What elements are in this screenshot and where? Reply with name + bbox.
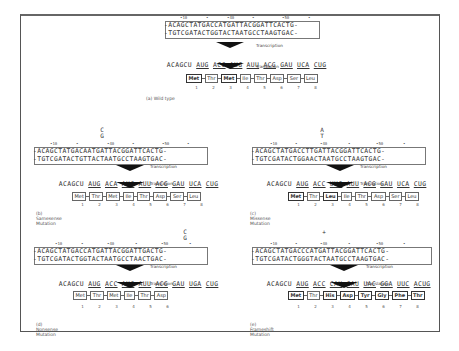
panel-wild-type: •10 • •40 • •50 • -ACAGCTATGACCATGATTACG…	[0, 0, 459, 120]
translation-arrow-icon	[116, 282, 144, 288]
dna-coding-strand: -ACAGCTATGACAATGATTACGGATTCACTG-	[33, 148, 167, 155]
amino-acid: Thr	[254, 74, 267, 83]
transcription-label: Transcription	[256, 43, 283, 48]
amino-acid: Ile	[124, 291, 135, 300]
dna-coding-strand: -ACAGCTATGACCATGATTACGGATTCACTG-	[164, 22, 298, 29]
amino-acid: Phe	[392, 291, 408, 300]
amino-acid: Ile	[123, 192, 134, 201]
protein-chain: Met Thr Met Ile Thr Asp	[73, 291, 168, 300]
dna-template-strand: -TGTCGATACTGGGTACTAATGCCTAAGTGAC-	[251, 256, 390, 263]
amino-acid: Asp	[371, 192, 385, 201]
amino-acid: Ser	[389, 192, 402, 201]
amino-acid: Tyr	[358, 291, 372, 300]
dna-coding-strand: -ACAGCTATGACCTTGATTACGGATTCACTG-	[251, 148, 385, 155]
amino-acid: Thr	[411, 291, 425, 300]
amino-acid: Met	[107, 291, 121, 300]
translation-arrow-icon	[216, 63, 244, 69]
amino-acid: Met	[106, 192, 120, 201]
transcription-arrow-icon	[326, 165, 354, 171]
amino-acid: Thr	[137, 192, 150, 201]
transcription-label: Transcription	[150, 264, 177, 269]
amino-acid: Leu	[304, 74, 318, 83]
amino-acid: Thr	[307, 291, 320, 300]
amino-acid: Leu	[405, 192, 419, 201]
translation-label: Translation	[366, 281, 389, 286]
amino-acid: Thr	[138, 291, 151, 300]
transcription-arrow-icon	[116, 165, 144, 171]
mutation-marker: C G	[181, 229, 189, 241]
amino-acid: Thr	[205, 74, 218, 83]
amino-acid: His	[323, 291, 337, 300]
translation-label: Translation	[360, 181, 383, 186]
transcription-arrow-icon	[116, 265, 144, 271]
amino-acid: Ile	[341, 192, 352, 201]
translation-label: Translation	[150, 181, 173, 186]
transcription-arrow-icon	[216, 42, 244, 48]
amino-acid: Met	[72, 192, 86, 201]
amino-acid: Thr	[89, 192, 102, 201]
translation-label: Translation	[150, 281, 173, 286]
amino-acid: Ser	[170, 192, 183, 201]
transcription-label: Transcription	[150, 164, 177, 169]
panel-caption: (b) Samesense Mutation	[36, 211, 62, 226]
dna-template-strand: -TGTCGATACTGGAACTAATGCCTAAGTGAC-	[251, 156, 385, 163]
amino-acid: Met	[288, 291, 304, 300]
protein-chain: Met Thr Met Ile Thr Asp Ser Leu	[72, 192, 201, 201]
amino-acid: Thr	[90, 291, 103, 300]
amino-acid: Met	[221, 74, 237, 83]
amino-acid: Leu	[187, 192, 201, 201]
panel-caption: (e) Frameshift Mutation	[250, 322, 274, 337]
amino-acid: Ser	[287, 74, 300, 83]
panel-caption: (a) Wild type	[146, 96, 175, 101]
transcription-label: Transcription	[360, 164, 387, 169]
dna-template-strand: -TGTCGATACTGGTACTAATGCCTAACTGAC-	[33, 256, 167, 263]
residue-numbers: 1 2 3 4 5 6 7 8	[290, 202, 426, 207]
translation-label: Translation	[256, 64, 279, 69]
transcription-label: Transcription	[366, 264, 393, 269]
translation-arrow-icon	[326, 182, 354, 188]
mutation-marker: A T	[318, 127, 326, 139]
residue-numbers: 1 2 3 4 5 6 7 8	[74, 202, 210, 207]
dna-template-strand: -TGTCGATACTGGTACTAATGCCTAAGTGAC-	[164, 30, 298, 37]
amino-acid: Ile	[240, 74, 251, 83]
insertion-marker: +	[320, 229, 328, 235]
panel-caption: (c) Missense Mutation	[250, 211, 271, 226]
dna-template-strand: -TGTCGATACTGTTACTAATGCCTAAGTGAC-	[33, 156, 167, 163]
amino-acid: Asp	[270, 74, 284, 83]
amino-acid: Thr	[355, 192, 368, 201]
amino-acid: Gly	[375, 291, 389, 300]
translation-arrow-icon	[330, 282, 358, 288]
amino-acid: Asp	[340, 291, 355, 300]
dna-coding-strand: -ACAGCTATGACCCATGATTACGGATTCACTG-	[251, 248, 390, 255]
amino-acid: Met	[186, 74, 202, 83]
mutation-marker: C G	[98, 127, 106, 139]
amino-acid: Met	[73, 291, 87, 300]
amino-acid: Asp	[153, 192, 167, 201]
amino-acid: Met	[288, 192, 304, 201]
residue-numbers: 1 2 3 4 5 6 7 8	[290, 304, 426, 309]
panel-caption: (d) Nonsense Mutation	[36, 322, 58, 337]
residue-numbers: 1 2 3 4 5 6 7 8	[188, 85, 324, 90]
transcription-arrow-icon	[330, 265, 358, 271]
protein-chain: Met Thr His Asp Tyr Gly Phe Thr	[288, 291, 425, 300]
protein-chain: Met Thr Leu Ile Thr Asp Ser Leu	[288, 192, 419, 201]
amino-acid: Thr	[307, 192, 320, 201]
dna-coding-strand: -ACAGCTATGACCATGATTACGGATTGACTG-	[33, 248, 167, 255]
translation-arrow-icon	[116, 182, 144, 188]
protein-chain: Met Thr Met Ile Thr Asp Ser Leu	[186, 74, 318, 83]
amino-acid: Asp	[154, 291, 168, 300]
amino-acid: Leu	[323, 192, 338, 201]
residue-numbers: 1 2 3 4 5 6	[74, 304, 176, 309]
